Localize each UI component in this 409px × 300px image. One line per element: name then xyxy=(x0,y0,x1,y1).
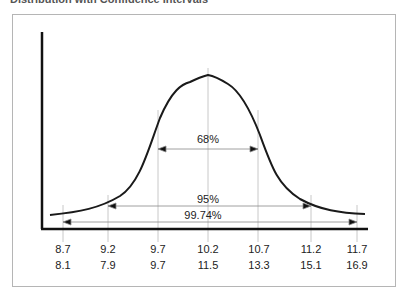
x-tick-row2: 8.1 xyxy=(55,259,70,271)
x-tick-row1: 9.2 xyxy=(100,243,115,255)
normal-curve-plot xyxy=(0,0,409,300)
x-tick-row1: 8.7 xyxy=(55,243,70,255)
x-tick-row1: 9.7 xyxy=(150,243,165,255)
label-9974: 99.74% xyxy=(184,209,221,221)
x-tick-row2: 11.5 xyxy=(198,259,219,271)
x-tick-row2: 9.7 xyxy=(150,259,165,271)
label-95: 95% xyxy=(197,193,219,205)
x-tick-row2: 13.3 xyxy=(248,259,269,271)
x-tick-row2: 16.9 xyxy=(346,259,367,271)
x-tick-row1: 11.7 xyxy=(347,243,368,255)
x-tick-row2: 15.1 xyxy=(300,259,321,271)
x-tick-row1: 10.2 xyxy=(197,243,218,255)
x-tick-row1: 10.7 xyxy=(248,243,269,255)
x-tick-row1: 11.2 xyxy=(301,243,322,255)
label-68: 68% xyxy=(197,133,219,145)
x-tick-row2: 7.9 xyxy=(100,259,115,271)
